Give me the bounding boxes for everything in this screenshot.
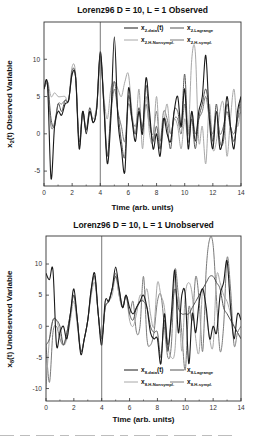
legend-label: x2-H-Nonsympl. <box>141 36 174 45</box>
x-tick-label: 12 <box>210 404 218 411</box>
chart-legend: x2-data(t)x2-Lagrangex2-H-Nonsympl.x2-H-… <box>124 24 214 45</box>
legend-label: x2-Lagrange <box>187 24 214 33</box>
x-tick-label: 2 <box>70 189 74 196</box>
x-tick-label: 8 <box>155 189 159 196</box>
figure-caption-fragment <box>0 426 257 436</box>
x-tick-label: 0 <box>42 189 46 196</box>
chart-title: Lorenz96 D = 10, L = 1 Observed <box>77 5 208 15</box>
legend-label: x2-H-sympl. <box>187 36 212 45</box>
legend-entry: x8-Lagrange <box>170 366 214 375</box>
chart-legend: x8-data(t)x8-Lagrangex8-H-Nonsympl.x8-H-… <box>124 366 214 387</box>
legend-entry: x8-H-sympl. <box>170 378 212 387</box>
legend-entry: x8-data(t) <box>124 366 163 375</box>
x-tick-label: 14 <box>237 404 245 411</box>
legend-label: x8-Lagrange <box>187 366 214 375</box>
series-line-x8-lagrange <box>46 275 241 357</box>
legend-entry: x2-H-sympl. <box>170 36 212 45</box>
chart-title: Lorenz96 D = 10, L = 1 Unobserved <box>73 220 214 230</box>
x-tick-label: 0 <box>44 404 48 411</box>
y-tick-label: 5 <box>36 93 40 100</box>
x-tick-label: 8 <box>156 404 160 411</box>
y-tick-label: 10 <box>35 260 43 267</box>
legend-entry: x2-H-Nonsympl. <box>124 36 174 45</box>
y-tick-label: -5 <box>36 354 42 361</box>
legend-entry: x2-data(t) <box>124 24 163 33</box>
observed-variable-chart: Lorenz96 D = 10, L = 1 Observed024681012… <box>0 0 257 215</box>
legend-entry: x8-H-Nonsympl. <box>124 378 174 387</box>
y-tick-label: 0 <box>36 130 40 137</box>
legend-label: x8-H-Nonsympl. <box>141 378 174 387</box>
legend-label: x2-data(t) <box>141 24 163 33</box>
y-tick-label: 10 <box>33 56 41 63</box>
x-tick-label: 2 <box>72 404 76 411</box>
x-tick-label: 12 <box>209 189 217 196</box>
y-axis-label: x8(t) Unobserved Variable <box>5 270 15 367</box>
x-tick-label: 14 <box>237 189 245 196</box>
plot-frame <box>44 22 241 186</box>
x-tick-label: 4 <box>100 404 104 411</box>
unobserved-variable-chart: Lorenz96 D = 10, L = 1 Unobserved0246810… <box>0 215 257 426</box>
y-tick-label: -10 <box>33 385 43 392</box>
y-axis-label: x2(t) Observed Variable <box>5 60 15 148</box>
x-tick-label: 6 <box>128 404 132 411</box>
legend-label: x8-H-sympl. <box>187 378 212 387</box>
y-tick-label: 0 <box>38 323 42 330</box>
x-tick-label: 4 <box>98 189 102 196</box>
x-tick-label: 6 <box>127 189 131 196</box>
series-line-x2-data-t- <box>44 37 241 179</box>
legend-label: x8-data(t) <box>141 366 163 375</box>
observed-chart-panel: Lorenz96 D = 10, L = 1 Observed024681012… <box>0 0 257 215</box>
y-tick-label: 5 <box>38 291 42 298</box>
legend-entry: x2-Lagrange <box>170 24 214 33</box>
x-axis-label: Time (arb. units) <box>112 415 174 424</box>
y-tick-label: -5 <box>34 167 40 174</box>
plot-frame <box>46 236 241 401</box>
x-tick-label: 10 <box>181 189 189 196</box>
x-axis-label: Time (arb. units) <box>111 203 173 212</box>
x-tick-label: 10 <box>182 404 190 411</box>
unobserved-chart-panel: Lorenz96 D = 10, L = 1 Unobserved0246810… <box>0 215 257 426</box>
